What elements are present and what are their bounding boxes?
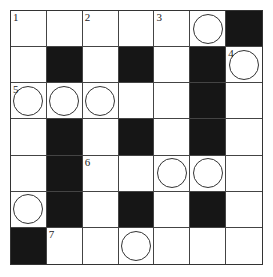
grid-cell[interactable] [119,11,155,47]
grid-cell[interactable] [154,228,190,264]
grid-cell[interactable] [190,11,226,47]
grid-cell[interactable] [83,192,119,228]
clue-number: 1 [13,11,19,23]
black-cell [47,192,83,228]
grid-cell[interactable] [154,156,190,192]
grid-cell[interactable]: 3 [154,11,190,47]
grid-cell[interactable] [11,47,47,83]
black-cell [47,156,83,192]
black-cell [47,119,83,155]
black-cell [119,119,155,155]
clue-number: 2 [85,11,91,23]
grid-cell[interactable] [47,83,83,119]
grid-cell[interactable] [119,156,155,192]
grid-cell[interactable]: 5 [11,83,47,119]
grid-cell[interactable] [83,228,119,264]
black-cell [226,11,262,47]
grid-cell[interactable] [154,119,190,155]
crossword-grid: 1234567 [10,10,263,265]
grid-cell[interactable] [226,156,262,192]
grid-cell[interactable] [154,47,190,83]
grid-cell[interactable] [119,83,155,119]
grid-cell[interactable] [226,192,262,228]
grid-cell[interactable] [119,228,155,264]
grid-cell[interactable] [154,192,190,228]
grid-cell[interactable] [226,228,262,264]
grid-cell[interactable]: 4 [226,47,262,83]
clue-number: 5 [13,83,19,95]
grid-cell[interactable] [11,119,47,155]
grid-cell[interactable] [83,83,119,119]
grid-cell[interactable] [154,83,190,119]
circle-icon [193,158,223,188]
black-cell [190,47,226,83]
grid-cell[interactable] [226,119,262,155]
grid-cell[interactable]: 2 [83,11,119,47]
grid-cell[interactable]: 7 [47,228,83,264]
grid-cell[interactable]: 1 [11,11,47,47]
black-cell [190,83,226,119]
circle-icon [121,231,151,261]
grid-cell[interactable] [11,192,47,228]
grid-cell[interactable] [83,119,119,155]
black-cell [47,47,83,83]
grid-cell[interactable] [47,11,83,47]
black-cell [11,228,47,264]
circle-icon [193,14,223,44]
circle-icon [13,194,43,224]
circle-icon [49,86,79,116]
clue-number: 3 [156,11,162,23]
clue-number: 6 [85,156,91,168]
grid-cell[interactable] [190,156,226,192]
black-cell [190,119,226,155]
clue-number: 7 [49,228,55,240]
grid-cell[interactable] [226,83,262,119]
black-cell [190,192,226,228]
black-cell [119,47,155,83]
grid-cell[interactable] [190,228,226,264]
grid-cell[interactable] [11,156,47,192]
circle-icon [85,86,115,116]
circle-icon [157,158,187,188]
grid-cell[interactable]: 6 [83,156,119,192]
black-cell [119,192,155,228]
clue-number: 4 [228,47,234,59]
grid-cell[interactable] [83,47,119,83]
